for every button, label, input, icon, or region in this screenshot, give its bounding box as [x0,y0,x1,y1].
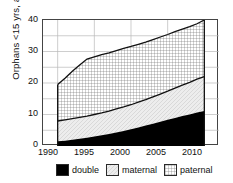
legend-item-double[interactable]: double [56,164,99,176]
legend-swatch-double-icon [56,164,69,176]
y-axis-title: Orphans <15 yrs, any cause [10,0,21,80]
y-tick-label-40: 40 [16,15,38,24]
legend-item-maternal[interactable]: maternal [106,164,157,176]
legend-label-double: double [72,165,99,175]
y-tick-label-10: 10 [16,109,38,118]
x-tick-label-2010: 2010 [172,148,212,157]
legend-swatch-maternal-icon [106,164,119,176]
y-tick-label-20: 20 [16,77,38,86]
legend-label-paternal: paternal [180,165,213,175]
legend-label-maternal: maternal [122,165,157,175]
y-axis-title-wrapper: Orphans <15 yrs, any cause [6,0,24,89]
x-tick-label-2000: 2000 [100,148,140,157]
chart-figure: Orphans <15 yrs, any cause 40 30 20 10 0… [0,0,233,183]
plot-area [42,19,218,145]
legend-swatch-paternal-icon [164,164,177,176]
chart-legend: double maternal paternal [56,162,228,177]
x-tick-label-2005: 2005 [136,148,176,157]
x-tick-label-1995: 1995 [64,148,104,157]
y-tick-label-30: 30 [16,46,38,55]
chart-svg [43,20,219,146]
x-tick-label-1990: 1990 [28,148,68,157]
legend-item-paternal[interactable]: paternal [164,164,213,176]
